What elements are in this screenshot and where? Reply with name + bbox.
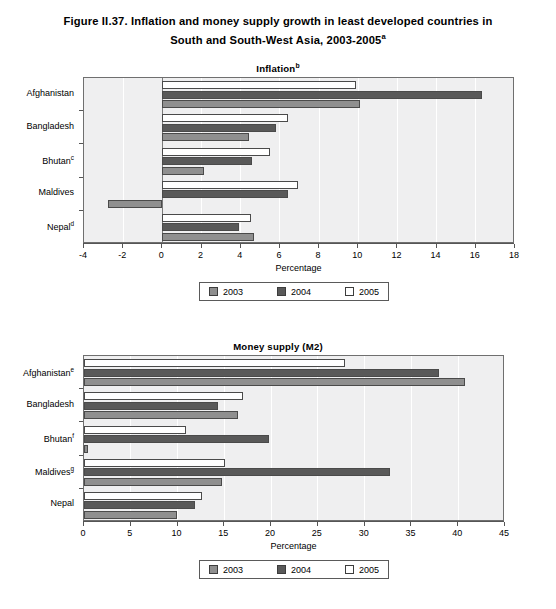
chart-money-supply: Money supply (M2) 051015202530354045 Per… [0,336,556,601]
inflation-legend-swatch-2004 [277,287,286,296]
money-supply-bar-nepal-2005 [84,492,202,500]
inflation-bar-afghanistan-2004 [162,91,481,99]
label-text: Nepal [50,498,74,508]
chart-money-supply-title: Money supply (M2) [0,340,556,352]
inflation-axis-tick [396,244,397,248]
chart-money-supply-plot-area [83,355,504,521]
money-supply-legend-swatch-2005 [345,565,354,574]
chart-inflation: Inflationb -4-2024681012141618 Percentag… [0,58,556,318]
money-supply-axis-tick [177,522,178,526]
money-supply-legend-item-2003[interactable]: 2003 [209,565,243,575]
figure-title-line2: South and South-West Asia, 2003-2005 [170,34,381,46]
inflation-axis-tick [514,244,515,248]
money-supply-bar-maldives-2004 [84,468,390,476]
chart-inflation-axis-title: Percentage [83,263,514,273]
inflation-gridline [436,78,437,242]
inflation-gridline [123,78,124,242]
money-supply-legend-item-2004[interactable]: 2004 [277,565,311,575]
inflation-bar-bhutan-2003 [162,167,203,175]
inflation-gridline [397,78,398,242]
inflation-bar-afghanistan-2005 [162,81,356,89]
inflation-axis-tick-label: -4 [68,250,98,260]
money-supply-category-label-afghanistan: Afghanistane [0,366,74,378]
money-supply-axis-tick [504,522,505,526]
money-supply-axis-tick-label: 15 [208,528,238,538]
inflation-bar-nepal-2005 [162,214,250,222]
inflation-axis-tick [122,244,123,248]
label-text: Maldives [38,187,74,197]
money-supply-axis-tick [130,522,131,526]
money-supply-bar-bangladesh-2003 [84,411,238,419]
inflation-axis-tick-label: 4 [225,250,255,260]
money-supply-legend-label-2005: 2005 [359,565,379,575]
inflation-axis-tick [240,244,241,248]
label-text: Bhutan [44,434,73,444]
inflation-gridline [475,78,476,242]
label-text: Maldives [35,467,71,477]
inflation-legend-item-2005[interactable]: 2005 [345,287,379,297]
money-supply-axis-tick-label: 25 [302,528,332,538]
money-supply-bar-bangladesh-2004 [84,402,218,410]
label-text: Bhutan [42,156,71,166]
inflation-bar-bhutan-2004 [162,157,252,165]
chart-money-supply-legend: 200320042005 [199,560,389,579]
inflation-axis-tick-label: 12 [381,250,411,260]
money-supply-axis-tick [223,522,224,526]
money-supply-legend-label-2004: 2004 [291,565,311,575]
inflation-axis-line [83,243,514,244]
inflation-legend-label-2005: 2005 [359,287,379,297]
inflation-axis-tick-label: 16 [460,250,490,260]
money-supply-axis-tick-label: 0 [68,528,98,538]
chart-inflation-legend: 200320042005 [199,282,389,301]
money-supply-category-label-nepal: Nepal [0,498,74,508]
money-supply-axis-tick-label: 40 [442,528,472,538]
inflation-legend-item-2004[interactable]: 2004 [277,287,311,297]
chart-inflation-title-text: Inflation [256,63,295,74]
money-supply-category-label-maldives: Maldivesg [0,465,74,477]
money-supply-category-label-bhutan: Bhutanf [0,432,74,444]
inflation-legend-label-2004: 2004 [291,287,311,297]
money-supply-legend-swatch-2003 [209,565,218,574]
inflation-axis-tick [201,244,202,248]
inflation-axis-tick-label: 0 [146,250,176,260]
money-supply-legend-item-2005[interactable]: 2005 [345,565,379,575]
inflation-axis-tick [436,244,437,248]
label-superscript: d [70,220,74,227]
inflation-axis-tick [161,244,162,248]
money-supply-bar-nepal-2003 [84,511,177,519]
figure-container: Figure II.37. Inflation and money supply… [0,0,556,609]
money-supply-axis-line [83,521,504,522]
money-supply-category-label-bangladesh: Bangladesh [0,399,74,409]
money-supply-legend-label-2003: 2003 [223,565,243,575]
chart-money-supply-title-text: Money supply (M2) [233,341,323,352]
figure-title-line1: Figure II.37. Inflation and money supply… [64,15,493,27]
inflation-bar-afghanistan-2003 [162,100,360,108]
inflation-legend-label-2003: 2003 [223,287,243,297]
inflation-category-tick [79,110,83,111]
inflation-axis-tick-label: 14 [421,250,451,260]
money-supply-axis-tick-label: 30 [349,528,379,538]
inflation-legend-swatch-2005 [345,287,354,296]
chart-money-supply-axis-title: Percentage [83,541,504,551]
money-supply-bar-afghanistan-2004 [84,369,439,377]
inflation-category-tick [79,210,83,211]
inflation-axis-tick-label: -2 [107,250,137,260]
money-supply-bar-afghanistan-2003 [84,378,465,386]
money-supply-bar-bhutan-2004 [84,435,269,443]
money-supply-category-tick [79,455,83,456]
money-supply-axis-tick-label: 5 [115,528,145,538]
money-supply-axis-tick [270,522,271,526]
inflation-category-tick [79,143,83,144]
inflation-axis-tick [357,244,358,248]
money-supply-bar-nepal-2004 [84,501,195,509]
figure-title: Figure II.37. Inflation and money supply… [22,14,534,48]
inflation-bar-bhutan-2005 [162,148,270,156]
money-supply-bar-afghanistan-2005 [84,359,345,367]
label-text: Nepal [47,222,71,232]
inflation-bar-maldives-2005 [162,181,297,189]
inflation-bar-bangladesh-2003 [162,133,248,141]
inflation-category-tick [79,177,83,178]
inflation-category-label-afghanistan: Afghanistan [0,88,74,98]
inflation-legend-item-2003[interactable]: 2003 [209,287,243,297]
inflation-legend-swatch-2003 [209,287,218,296]
